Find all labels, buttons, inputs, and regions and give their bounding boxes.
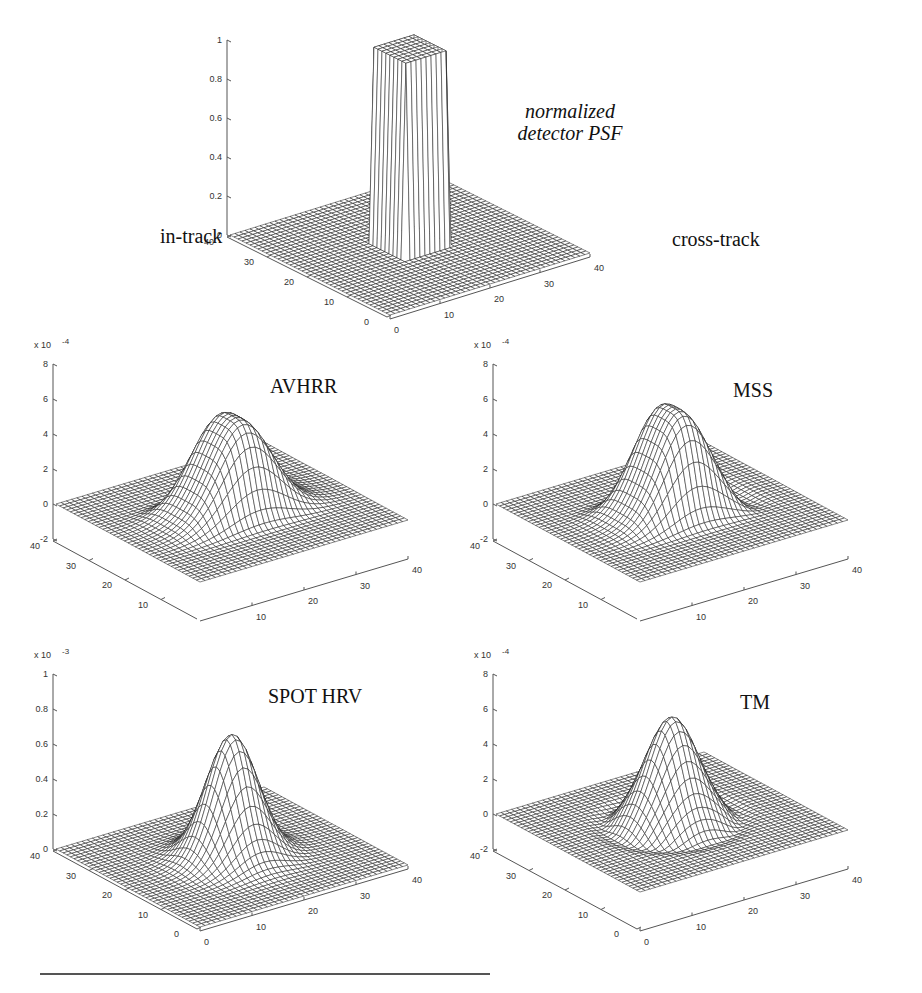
z-tick-label: 6 xyxy=(43,394,48,404)
y-tick-label: 0 xyxy=(614,929,619,939)
z-tick-label: 2 xyxy=(43,464,48,474)
x-tick-label: 40 xyxy=(412,875,422,885)
x-tick-label: 30 xyxy=(800,891,810,901)
surface-mesh xyxy=(56,412,408,582)
z-tick-label: -2 xyxy=(480,844,488,854)
x-tick-label: 20 xyxy=(748,906,758,916)
mss-surface: 1020304010203040-202468x 10-4 xyxy=(465,355,905,645)
surface-mesh xyxy=(496,404,848,582)
x-tick-label: 30 xyxy=(800,581,810,591)
mesh: 1020304010203040-202468x 10-4 xyxy=(470,337,862,622)
x-tick-label: 30 xyxy=(544,279,554,289)
x-tick-label: 40 xyxy=(594,263,604,273)
spot-hrv-plot: 01020304001020304000.20.40.60.81x 10-3 S… xyxy=(25,655,465,955)
x-tick-label: 40 xyxy=(852,565,862,575)
x-tick-label: 40 xyxy=(412,565,422,575)
x-tick-label: 30 xyxy=(360,891,370,901)
spot-hrv-surface: 01020304001020304000.20.40.60.81x 10-3 xyxy=(25,655,465,955)
z-tick-label: 2 xyxy=(483,464,488,474)
detector-psf-surface: 01020304001020304000.20.40.60.81 xyxy=(230,45,690,330)
x-tick-label: 10 xyxy=(256,922,266,932)
mesh: 01020304001020304000.20.40.60.81 xyxy=(204,35,604,335)
y-tick-label: 30 xyxy=(66,871,76,881)
y-tick-label: 30 xyxy=(506,871,516,881)
x-tick-label: 0 xyxy=(204,937,209,947)
y-tick-label: 20 xyxy=(542,580,552,590)
z-tick-label: 6 xyxy=(483,394,488,404)
z-exponent: -4 xyxy=(62,337,70,346)
y-tick-label: 20 xyxy=(102,580,112,590)
x-tick-label: 20 xyxy=(308,596,318,606)
avhrr-surface: 1020304010203040-202468x 10-4 xyxy=(25,355,465,645)
bottom-rule xyxy=(40,973,490,975)
y-tick-label: 10 xyxy=(138,910,148,920)
y-tick-label: 10 xyxy=(138,600,148,610)
x-tick-label: 30 xyxy=(360,581,370,591)
z-tick-label: 0 xyxy=(483,499,488,509)
tm-surface: 010203040010203040-202468x 10-4 xyxy=(465,655,905,955)
avhrr-plot: 1020304010203040-202468x 10-4 AVHRR xyxy=(25,355,465,645)
y-tick-label: 30 xyxy=(66,561,76,571)
z-multiplier: x 10 xyxy=(474,650,491,660)
title-line-1: normalized xyxy=(490,100,650,122)
z-tick-label: 4 xyxy=(43,429,48,439)
title-line-2: detector PSF xyxy=(490,122,650,144)
x-tick-label: 10 xyxy=(696,922,706,932)
x-tick-label: 20 xyxy=(494,294,504,304)
y-tick-label: 30 xyxy=(244,257,254,267)
y-tick-label: 10 xyxy=(578,910,588,920)
mesh: 1020304010203040-202468x 10-4 xyxy=(30,337,422,622)
z-tick-label: 0 xyxy=(43,844,48,854)
z-tick-label: 8 xyxy=(483,359,488,369)
in-track-label: in-track xyxy=(160,225,222,248)
x-tick-label: 20 xyxy=(308,906,318,916)
z-tick-label: 0.4 xyxy=(209,152,222,162)
z-tick-label: 0.8 xyxy=(35,704,48,714)
x-tick-label: 10 xyxy=(444,310,454,320)
x-tick-label: 10 xyxy=(696,612,706,622)
y-tick-label: 40 xyxy=(470,541,480,551)
z-tick-label: 0.4 xyxy=(35,774,48,784)
y-tick-label: 10 xyxy=(578,600,588,610)
x-tick-label: 0 xyxy=(394,325,399,335)
x-tick-label: 10 xyxy=(256,612,266,622)
detector-psf-plot: 01020304001020304000.20.40.60.81 normali… xyxy=(230,45,690,330)
z-multiplier: x 10 xyxy=(34,340,51,350)
z-tick-label: 4 xyxy=(483,739,488,749)
y-tick-label: 40 xyxy=(30,541,40,551)
z-tick-label: 4 xyxy=(483,429,488,439)
z-exponent: -3 xyxy=(62,647,70,656)
z-tick-label: 8 xyxy=(483,669,488,679)
y-tick-label: 30 xyxy=(506,561,516,571)
surface-mesh xyxy=(230,35,590,315)
z-tick-label: 0 xyxy=(483,809,488,819)
cross-track-label: cross-track xyxy=(672,228,760,251)
tm-title: TM xyxy=(740,691,770,714)
z-tick-label: 0.2 xyxy=(35,809,48,819)
avhrr-title: AVHRR xyxy=(270,375,337,398)
tm-plot: 010203040010203040-202468x 10-4 TM xyxy=(465,655,905,955)
x-tick-label: 0 xyxy=(644,937,649,947)
z-tick-label: 0.6 xyxy=(35,739,48,749)
surface-mesh xyxy=(496,717,848,892)
z-exponent: -4 xyxy=(502,337,510,346)
z-tick-label: 2 xyxy=(483,774,488,784)
y-tick-label: 40 xyxy=(30,851,40,861)
z-tick-label: -2 xyxy=(480,534,488,544)
spot-hrv-title: SPOT HRV xyxy=(268,685,362,708)
y-tick-label: 20 xyxy=(102,890,112,900)
y-tick-label: 20 xyxy=(284,277,294,287)
z-tick-label: 1 xyxy=(217,35,222,45)
y-tick-label: 40 xyxy=(470,851,480,861)
x-tick-label: 20 xyxy=(748,596,758,606)
z-exponent: -4 xyxy=(502,647,510,656)
z-tick-label: 0.2 xyxy=(209,191,222,201)
z-tick-label: -2 xyxy=(40,534,48,544)
z-tick-label: 8 xyxy=(43,359,48,369)
z-tick-label: 1 xyxy=(43,669,48,679)
z-tick-label: 6 xyxy=(483,704,488,714)
y-tick-label: 0 xyxy=(174,929,179,939)
y-tick-label: 10 xyxy=(324,297,334,307)
z-tick-label: 0.8 xyxy=(209,74,222,84)
mss-plot: 1020304010203040-202468x 10-4 MSS xyxy=(465,355,905,645)
